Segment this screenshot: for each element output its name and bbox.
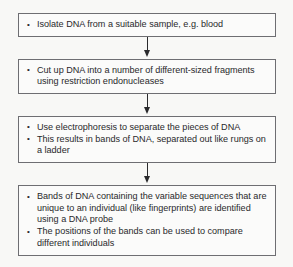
arrow-head (144, 50, 150, 57)
flowchart-step-4: Bands of DNA containing the variable seq… (18, 185, 276, 255)
list-item: Use electrophoresis to separate the piec… (25, 122, 267, 134)
down-arrow-icon (18, 163, 276, 185)
down-arrow-icon (18, 94, 276, 116)
down-arrow-icon (18, 37, 276, 59)
flowchart-step-3: Use electrophoresis to separate the piec… (18, 116, 276, 163)
step-4-bullet-list: Bands of DNA containing the variable seq… (25, 191, 267, 249)
list-item: Bands of DNA containing the variable seq… (25, 191, 267, 226)
arrow-head (144, 176, 150, 183)
step-2-bullet-list: Cut up DNA into a number of different-si… (25, 65, 267, 88)
step-1-bullet-list: Isolate DNA from a suitable sample, e.g.… (25, 19, 267, 31)
list-item: The positions of the bands can be used t… (25, 226, 267, 249)
flowchart-step-1: Isolate DNA from a suitable sample, e.g.… (18, 13, 276, 37)
arrow-head (144, 107, 150, 114)
flowchart-step-2: Cut up DNA into a number of different-si… (18, 59, 276, 94)
flowchart-diagram: Isolate DNA from a suitable sample, e.g.… (0, 0, 293, 267)
list-item: Isolate DNA from a suitable sample, e.g.… (25, 19, 267, 31)
list-item: Cut up DNA into a number of different-si… (25, 65, 267, 88)
step-3-bullet-list: Use electrophoresis to separate the piec… (25, 122, 267, 157)
list-item: This results in bands of DNA, separated … (25, 134, 267, 157)
